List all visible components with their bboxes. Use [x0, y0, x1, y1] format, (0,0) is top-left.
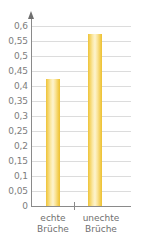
y-tick-label: 0,3	[2, 112, 28, 121]
y-tick-label: 0,25	[2, 127, 28, 136]
x-category-label-line: echte	[30, 213, 76, 224]
gridline	[32, 41, 131, 42]
x-category-label-echte: echte Brüche	[30, 213, 76, 235]
x-axis-tick	[74, 202, 75, 210]
x-category-label-unechte: unechte Brüche	[72, 213, 130, 235]
y-axis-arrow-icon	[28, 11, 34, 19]
x-axis	[31, 206, 131, 207]
x-category-label-line: unechte	[72, 213, 130, 224]
y-tick-label: 0,45	[2, 67, 28, 76]
x-category-label-line: Brüche	[30, 224, 76, 235]
y-tick-label: 0,6	[2, 22, 28, 31]
y-tick-label: 0,35	[2, 97, 28, 106]
bar-chart: 0,6 0,55 0,5 0,45 0,4 0,35 0,3 0,25 0,2 …	[0, 0, 141, 246]
gridline	[32, 71, 131, 72]
y-tick-label: 0,55	[2, 37, 28, 46]
gridline	[32, 26, 131, 27]
y-tick-label: 0,05	[2, 187, 28, 196]
y-tick-label: 0,1	[2, 172, 28, 181]
y-tick-label: 0,2	[2, 142, 28, 151]
bar-unechte-bruche	[88, 34, 102, 207]
y-tick-label: 0,15	[2, 157, 28, 166]
x-category-label-line: Brüche	[72, 224, 130, 235]
gridline	[32, 56, 131, 57]
y-tick-label: 0,4	[2, 82, 28, 91]
bar-echte-bruche	[46, 79, 60, 207]
y-tick-label: 0	[2, 202, 28, 211]
y-tick-label: 0,5	[2, 52, 28, 61]
y-axis	[31, 18, 32, 207]
